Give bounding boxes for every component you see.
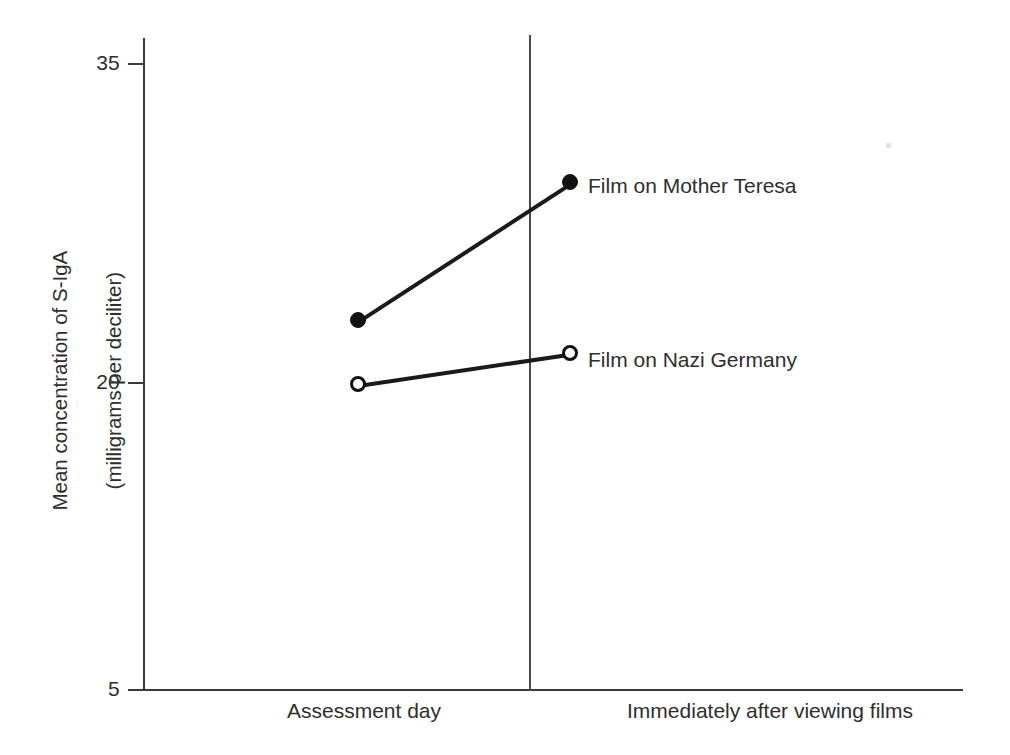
y-tick-mark-5 bbox=[128, 689, 144, 691]
y-axis-title-line2: (milligrams per deciliter) bbox=[101, 151, 128, 611]
x-axis-label-assessment-day: Assessment day bbox=[194, 699, 534, 723]
y-axis-title: Mean concentration of S-IgA (milligrams … bbox=[19, 151, 154, 611]
scan-artifact-speck bbox=[886, 143, 891, 148]
series-line-mother-teresa bbox=[358, 182, 572, 323]
x-axis-label-after-viewing-films: Immediately after viewing films bbox=[570, 699, 970, 723]
series-label-mother-teresa: Film on Mother Teresa bbox=[588, 174, 797, 198]
series-label-nazi-germany: Film on Nazi Germany bbox=[588, 348, 797, 372]
series-line-nazi-germany bbox=[358, 353, 571, 388]
y-axis-title-line1: Mean concentration of S-IgA bbox=[46, 151, 73, 611]
data-point-mother-teresa-after-viewing bbox=[562, 174, 578, 190]
data-point-nazi-germany-assessment-day bbox=[350, 376, 366, 392]
y-tick-label-35: 35 bbox=[60, 51, 120, 75]
data-point-nazi-germany-after-viewing bbox=[562, 345, 578, 361]
occasion-divider-line bbox=[529, 35, 531, 691]
y-tick-label-5: 5 bbox=[60, 677, 120, 701]
data-point-mother-teresa-assessment-day bbox=[350, 312, 366, 328]
chart-figure: 35 20 5 Mean concentration of S-IgA (mil… bbox=[0, 0, 1010, 755]
x-axis-line bbox=[143, 689, 963, 691]
y-tick-mark-35 bbox=[128, 63, 144, 65]
